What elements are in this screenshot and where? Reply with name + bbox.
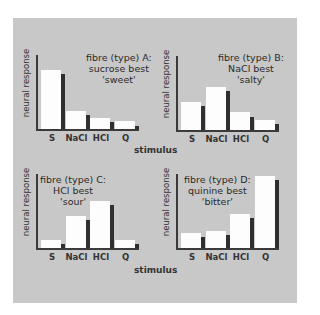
bar-hcl-white bbox=[230, 214, 250, 248]
bar-q-dark bbox=[135, 126, 139, 129]
category-label: HCl bbox=[89, 252, 113, 262]
category-label: HCl bbox=[229, 134, 253, 144]
bar-q-dark bbox=[275, 124, 279, 130]
chart-fibre-b: neural responsefibre (type) B:NaCl best'… bbox=[176, 37, 296, 132]
category-label: NaCl bbox=[205, 252, 229, 262]
bar-s-white bbox=[181, 102, 201, 130]
category-label: S bbox=[40, 133, 64, 143]
y-axis-label: neural response bbox=[21, 165, 31, 239]
y-axis bbox=[176, 56, 178, 132]
bar-s-white bbox=[41, 240, 61, 248]
chart-title: fibre (type) B:NaCl best'salty' bbox=[218, 52, 284, 85]
bar-hcl-white bbox=[90, 118, 110, 129]
bar-s-white bbox=[181, 233, 201, 248]
bar-s-dark bbox=[201, 237, 205, 248]
chart-title: fibre (type) D:quinine best'bitter' bbox=[184, 174, 251, 207]
category-label: S bbox=[40, 252, 64, 262]
bar-hcl-dark bbox=[250, 218, 254, 248]
bar-hcl-white bbox=[90, 201, 110, 248]
chart-title: fibre (type) A:sucrose best'sweet' bbox=[86, 52, 152, 85]
y-axis bbox=[36, 55, 38, 131]
bar-q-white bbox=[115, 240, 135, 248]
bar-nacl-dark bbox=[226, 235, 230, 248]
bar-hcl-dark bbox=[110, 205, 114, 248]
x-axis bbox=[176, 130, 279, 132]
bar-nacl-dark bbox=[226, 91, 230, 130]
bar-s-dark bbox=[61, 74, 65, 129]
category-label: NaCl bbox=[65, 133, 89, 143]
x-axis-label-bottom: stimulus bbox=[134, 265, 177, 275]
x-axis-label-top: stimulus bbox=[134, 145, 177, 155]
bar-nacl-dark bbox=[86, 115, 90, 129]
bar-nacl-dark bbox=[86, 220, 90, 248]
category-label: HCl bbox=[89, 133, 113, 143]
category-label: HCl bbox=[229, 252, 253, 262]
y-axis-label: neural response bbox=[161, 47, 171, 121]
y-axis bbox=[36, 174, 38, 250]
category-label: Q bbox=[254, 252, 278, 262]
bar-s-dark bbox=[61, 244, 65, 248]
bar-q-dark bbox=[135, 244, 139, 248]
chart-fibre-d: neural responsefibre (type) D:quinine be… bbox=[176, 155, 296, 250]
category-label: S bbox=[180, 134, 204, 144]
x-axis bbox=[176, 248, 279, 250]
y-axis-label: neural response bbox=[21, 46, 31, 120]
category-label: NaCl bbox=[65, 252, 89, 262]
bar-q-dark bbox=[275, 180, 279, 248]
bar-q-white bbox=[255, 120, 275, 130]
bar-nacl-white bbox=[66, 216, 86, 248]
chart-fibre-a: neural responsefibre (type) A:sucrose be… bbox=[36, 36, 156, 131]
category-label: Q bbox=[114, 252, 138, 262]
y-axis bbox=[176, 174, 178, 250]
bar-s-dark bbox=[201, 106, 205, 130]
bar-hcl-dark bbox=[110, 122, 114, 129]
category-label: Q bbox=[254, 134, 278, 144]
bar-nacl-white bbox=[206, 87, 226, 130]
chart-fibre-c: neural responsefibre (type) C:HCl best's… bbox=[36, 155, 156, 250]
bar-q-white bbox=[255, 176, 275, 248]
category-label: S bbox=[180, 252, 204, 262]
bar-q-white bbox=[115, 121, 135, 129]
bar-s-white bbox=[41, 70, 61, 129]
x-axis bbox=[36, 248, 139, 250]
x-axis bbox=[36, 129, 139, 131]
bar-nacl-white bbox=[206, 231, 226, 248]
category-label: NaCl bbox=[205, 134, 229, 144]
bar-hcl-dark bbox=[250, 117, 254, 130]
bar-nacl-white bbox=[66, 111, 86, 129]
bar-hcl-white bbox=[230, 112, 250, 130]
category-label: Q bbox=[114, 133, 138, 143]
y-axis-label: neural response bbox=[161, 165, 171, 239]
